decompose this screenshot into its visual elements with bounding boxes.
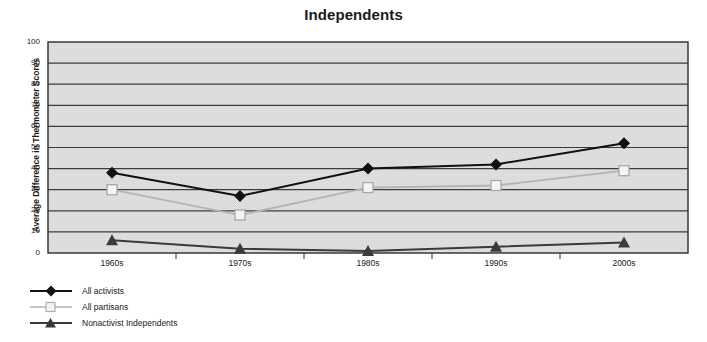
- x-axis-tick-label: 2000s: [589, 258, 659, 268]
- legend-swatch-open-square-icon: [28, 300, 74, 314]
- data-point-marker: [619, 166, 629, 176]
- x-axis-tick-label: 1970s: [205, 258, 275, 268]
- y-axis-tick-label: 10: [14, 226, 40, 235]
- legend-item: All partisans: [28, 299, 177, 315]
- data-point-marker: [235, 210, 245, 220]
- y-axis-tick-label: 100: [14, 37, 40, 46]
- y-axis-tick-label: 20: [14, 205, 40, 214]
- x-axis-tick-label: 1990s: [461, 258, 531, 268]
- x-axis-tick-label: 1980s: [333, 258, 403, 268]
- legend-swatch-filled-diamond-icon: [28, 284, 74, 298]
- chart-legend: All activists All partisans Nonactivist …: [28, 283, 177, 331]
- y-axis-tick-label: 70: [14, 100, 40, 109]
- legend-swatch-filled-triangle-icon: [28, 316, 74, 330]
- legend-label: All activists: [82, 286, 124, 296]
- data-point-marker: [107, 185, 117, 195]
- y-axis-tick-label: 30: [14, 184, 40, 193]
- data-point-marker: [363, 183, 373, 193]
- y-axis-tick-label: 0: [14, 248, 40, 257]
- y-axis-tick-label: 90: [14, 58, 40, 67]
- legend-label: Nonactivist Independents: [82, 318, 177, 328]
- legend-item: Nonactivist Independents: [28, 315, 177, 331]
- y-axis-tick-label: 40: [14, 163, 40, 172]
- y-axis-tick-label: 60: [14, 121, 40, 130]
- data-point-marker: [491, 180, 501, 190]
- legend-item: All activists: [28, 283, 177, 299]
- x-axis-tick-label: 1960s: [77, 258, 147, 268]
- chart-container: Independents Average Difference in Therm…: [0, 0, 707, 342]
- y-axis-tick-label: 80: [14, 79, 40, 88]
- y-axis-tick-label: 50: [14, 142, 40, 151]
- legend-label: All partisans: [82, 302, 128, 312]
